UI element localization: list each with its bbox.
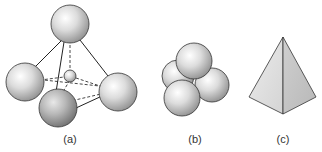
- sphere-front: [164, 80, 200, 116]
- tetrahedron-right-face: [283, 37, 316, 114]
- panel-b: (b): [162, 43, 229, 145]
- panel-c-label: (c): [277, 133, 290, 145]
- tetrahedral-diagram: (a) (b) (c): [0, 0, 322, 152]
- sphere-left: [6, 63, 44, 101]
- sphere-right: [99, 73, 137, 111]
- sphere-top: [51, 5, 89, 43]
- small-sphere-interstitial: [64, 70, 76, 82]
- panel-c: (c): [249, 37, 316, 145]
- tetrahedron-left-face: [249, 37, 283, 114]
- panel-a: (a): [6, 5, 137, 145]
- sphere-front: [39, 89, 77, 127]
- sphere-top: [176, 43, 212, 79]
- panel-a-label: (a): [63, 133, 76, 145]
- panel-b-label: (b): [188, 133, 201, 145]
